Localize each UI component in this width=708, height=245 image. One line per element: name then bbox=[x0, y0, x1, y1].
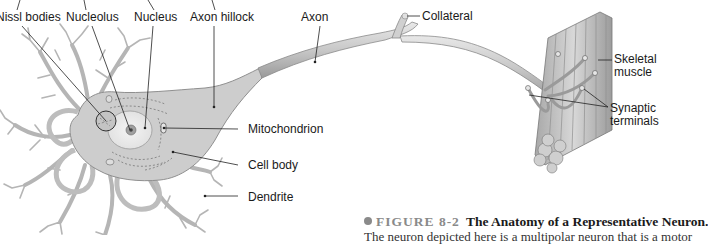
axon-shape bbox=[258, 22, 418, 78]
label-skeletal-muscle-2: muscle bbox=[614, 66, 652, 79]
skeletal-muscle-shape bbox=[534, 12, 612, 173]
label-axon-hillock: Axon hillock bbox=[190, 11, 254, 24]
label-cell-body: Cell body bbox=[248, 159, 298, 172]
label-dendrite: Dendrite bbox=[248, 191, 293, 204]
figure-caption-body: The neuron depicted here is a multipolar… bbox=[364, 229, 692, 245]
label-nissl-bodies: Nissl bodies bbox=[0, 11, 61, 24]
label-mitochondrion: Mitochondrion bbox=[248, 123, 323, 136]
figure-number: FIGURE 8-2 bbox=[376, 214, 460, 229]
figure-title: The Anatomy of a Representative Neuron. bbox=[466, 214, 708, 229]
label-nucleolus: Nucleolus bbox=[66, 11, 119, 24]
label-axon: Axon bbox=[301, 11, 328, 24]
label-nucleus: Nucleus bbox=[134, 11, 177, 24]
figure-caption: FIGURE 8-2The Anatomy of a Representativ… bbox=[364, 214, 708, 230]
label-collateral: Collateral bbox=[422, 10, 473, 23]
label-synaptic-terminals-2: terminals bbox=[610, 115, 659, 128]
caption-bullet-icon bbox=[364, 217, 372, 225]
